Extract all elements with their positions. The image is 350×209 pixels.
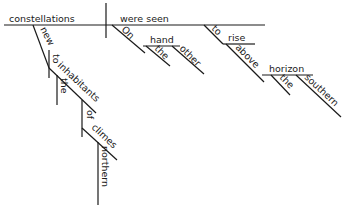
word-rise: rise [228,32,245,43]
word-northern: northern [100,146,111,187]
subject-text: constellations [9,13,75,24]
sentence-diagram: constellations were seen new to inhabita… [0,0,350,209]
word-of: of [85,110,96,120]
word-southern: southern [303,71,341,108]
word-other: other [178,43,204,69]
word-the-1: the [59,78,70,94]
word-on: On [120,24,137,41]
word-new: new [38,25,57,48]
